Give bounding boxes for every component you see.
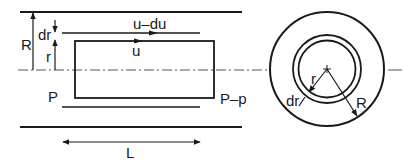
cross-label-r: r (311, 70, 316, 87)
cross-label-R: R (356, 94, 367, 111)
label-dr: dr (38, 26, 51, 43)
cross-section: r dr R (270, 12, 384, 126)
label-L: L (126, 144, 134, 161)
label-u: u (132, 42, 140, 59)
label-P-minus-p: P–p (220, 90, 247, 107)
label-r: r (46, 48, 51, 65)
pipe-flow-diagram: R dr r u–du u P P–p L r dr R (0, 0, 414, 163)
side-view: R dr r u–du u P P–p L (18, 12, 402, 161)
cross-dr-line (299, 97, 305, 106)
label-P: P (48, 88, 58, 105)
label-u-minus-du: u–du (133, 15, 166, 32)
label-R: R (21, 36, 32, 53)
cross-label-dr: dr (286, 92, 299, 109)
